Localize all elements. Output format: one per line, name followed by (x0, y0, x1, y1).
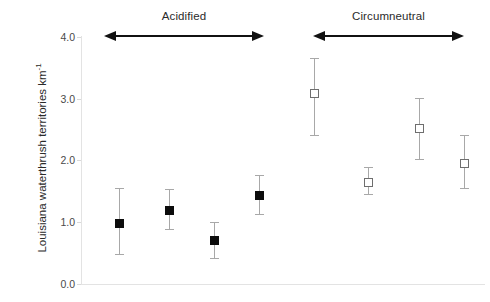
group-label-circumneutral: Circumneutral (313, 10, 464, 22)
error-bar-cap-lower (165, 229, 174, 230)
y-tick-mark (77, 160, 81, 161)
error-bar-cap-upper (364, 167, 373, 168)
data-marker (460, 159, 469, 168)
data-marker (415, 124, 424, 133)
data-marker (255, 191, 264, 200)
error-bar-cap-upper (310, 58, 319, 59)
chart-figure: Acidified Circumneutral Louisiana watert… (0, 0, 490, 302)
y-tick-label: 2.0 (35, 154, 75, 166)
error-bar-cap-upper (415, 98, 424, 99)
error-bar-cap-upper (165, 189, 174, 190)
error-bar-cap-upper (115, 188, 124, 189)
error-bar-cap-upper (460, 135, 469, 136)
data-marker (165, 206, 174, 215)
data-marker (115, 219, 124, 228)
data-point (204, 0, 224, 302)
error-bar-cap-lower (415, 159, 424, 160)
y-tick-mark (77, 284, 81, 285)
error-bar-cap-lower (310, 135, 319, 136)
data-point (249, 0, 269, 302)
data-point (159, 0, 179, 302)
y-tick-label: 4.0 (35, 31, 75, 43)
error-bar-cap-lower (255, 214, 264, 215)
data-point (409, 0, 429, 302)
data-marker (210, 236, 219, 245)
data-point (109, 0, 129, 302)
error-bar-cap-upper (255, 175, 264, 176)
error-bar-cap-upper (210, 222, 219, 223)
y-axis-line (81, 36, 82, 285)
circumneutral-range-arrow-icon (313, 30, 464, 42)
error-bar-cap-lower (460, 188, 469, 189)
y-tick-label: 3.0 (35, 93, 75, 105)
data-point (454, 0, 474, 302)
y-tick-mark (77, 99, 81, 100)
data-point (358, 0, 378, 302)
y-tick-label: 1.0 (35, 216, 75, 228)
y-tick-mark (77, 37, 81, 38)
error-bar-cap-lower (115, 254, 124, 255)
error-bar-cap-lower (210, 258, 219, 259)
y-axis-title-superscript: -1 (34, 63, 43, 70)
data-marker (364, 178, 373, 187)
data-marker (310, 89, 319, 98)
error-bar-cap-lower (364, 194, 373, 195)
y-tick-label: 0.0 (35, 278, 75, 290)
y-tick-mark (77, 222, 81, 223)
data-point (304, 0, 324, 302)
